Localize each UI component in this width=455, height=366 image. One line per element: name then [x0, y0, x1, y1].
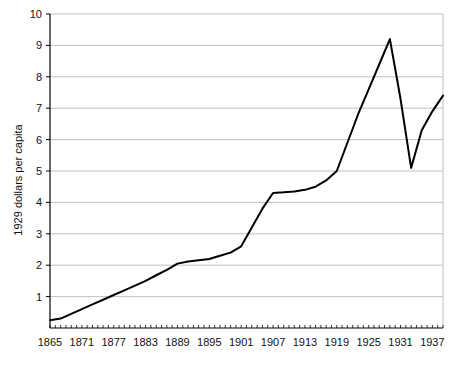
- y-tick-label: 8: [36, 71, 42, 83]
- x-tick-label: 1889: [165, 336, 189, 348]
- y-tick-label: 7: [36, 102, 42, 114]
- x-tick-label: 1937: [420, 336, 444, 348]
- x-tick-label: 1871: [70, 336, 94, 348]
- x-tick-label: 1901: [229, 336, 253, 348]
- x-tick-label: 1907: [261, 336, 285, 348]
- x-tick-label: 1925: [356, 336, 380, 348]
- y-tick-label: 3: [36, 228, 42, 240]
- y-tick-label: 6: [36, 134, 42, 146]
- chart-container: 12345678910 1865187118771883188918951901…: [0, 0, 455, 366]
- line-chart: 12345678910 1865187118771883188918951901…: [0, 0, 455, 366]
- y-tick-label: 2: [36, 259, 42, 271]
- y-tick-label: 10: [30, 8, 42, 20]
- x-tick-label: 1883: [133, 336, 157, 348]
- y-axis-title-text: 1929 dollars per capita: [12, 123, 24, 235]
- x-tick-label: 1865: [38, 336, 62, 348]
- y-tick-label: 5: [36, 165, 42, 177]
- y-tick-label: 4: [36, 196, 42, 208]
- x-tick-label: 1919: [325, 336, 349, 348]
- x-tick-label: 1895: [197, 336, 221, 348]
- y-axis-title: 1929 dollars per capita: [12, 123, 24, 235]
- x-tick-label: 1931: [388, 336, 412, 348]
- x-tick-label: 1877: [101, 336, 125, 348]
- x-tick-label: 1913: [293, 336, 317, 348]
- chart-background: [0, 0, 455, 366]
- y-tick-label: 1: [36, 291, 42, 303]
- y-tick-label: 9: [36, 39, 42, 51]
